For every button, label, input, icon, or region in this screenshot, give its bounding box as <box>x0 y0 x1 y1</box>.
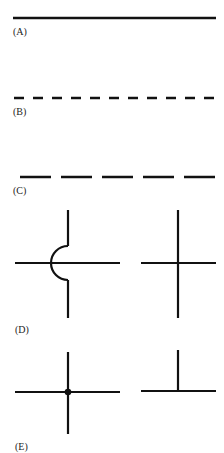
plain-crossing <box>141 210 216 318</box>
panel-label-e: (E) <box>15 441 28 452</box>
dot-junction <box>15 352 120 434</box>
line-styles-diagram <box>0 0 224 453</box>
hop-over-crossing <box>15 210 120 318</box>
panel-label-a: (A) <box>13 26 27 37</box>
panel-label-d: (D) <box>15 324 29 335</box>
panel-label-b: (B) <box>13 106 26 117</box>
junction-dot <box>65 389 72 396</box>
t-junction <box>141 350 216 391</box>
panel-label-c: (C) <box>13 185 26 196</box>
